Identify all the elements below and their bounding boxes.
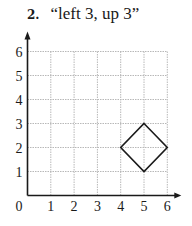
y-tick-label: 3	[16, 117, 23, 132]
y-axis-arrow-icon	[25, 32, 31, 40]
axes	[25, 32, 182, 199]
x-tick-label: 0	[16, 199, 23, 214]
x-tick-label: 2	[71, 199, 78, 214]
y-tick-label: 4	[16, 93, 23, 108]
y-tick-label: 1	[16, 165, 23, 180]
tick-labels: 0123456123456	[16, 45, 171, 215]
x-axis-arrow-icon	[174, 193, 181, 199]
x-tick-label: 4	[117, 199, 124, 214]
grid-lines	[28, 52, 168, 196]
y-tick-label: 6	[16, 45, 23, 60]
y-tick-label: 2	[16, 141, 23, 156]
x-tick-label: 1	[47, 199, 54, 214]
x-tick-label: 5	[141, 199, 148, 214]
y-tick-label: 5	[16, 69, 23, 84]
x-tick-label: 6	[164, 199, 171, 214]
x-tick-label: 3	[94, 199, 101, 214]
coordinate-grid: 0123456123456	[0, 0, 192, 226]
